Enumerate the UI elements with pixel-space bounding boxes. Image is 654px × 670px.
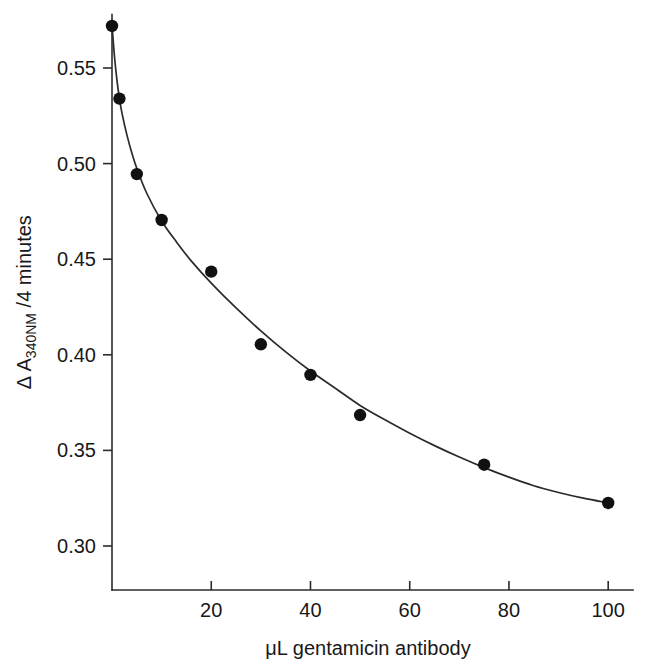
x-tick-label: 20	[200, 599, 222, 621]
data-point-marker	[113, 92, 125, 104]
data-point-marker	[304, 369, 316, 381]
y-tick-label: 0.55	[57, 57, 96, 79]
data-point-marker	[155, 214, 167, 226]
chart-background	[0, 0, 654, 670]
x-axis-title-text: μL gentamicin antibody	[265, 637, 470, 659]
y-tick-label: 0.40	[57, 344, 96, 366]
data-point-marker	[255, 338, 267, 350]
x-tick-label: 100	[592, 599, 625, 621]
data-point-marker	[478, 459, 490, 471]
y-tick-label: 0.30	[57, 535, 96, 557]
x-tick-label: 60	[399, 599, 421, 621]
y-tick-label: 0.35	[57, 439, 96, 461]
y-tick-label: 0.50	[57, 153, 96, 175]
data-point-marker	[354, 409, 366, 421]
data-point-marker	[106, 20, 118, 32]
data-point-marker	[131, 168, 143, 180]
chart-figure: 0.300.350.400.450.500.55 20406080100 Δ A…	[0, 0, 654, 670]
x-tick-label: 80	[498, 599, 520, 621]
data-point-marker	[602, 497, 614, 509]
x-tick-label: 40	[299, 599, 321, 621]
data-point-marker	[205, 265, 217, 277]
y-tick-label: 0.45	[57, 248, 96, 270]
